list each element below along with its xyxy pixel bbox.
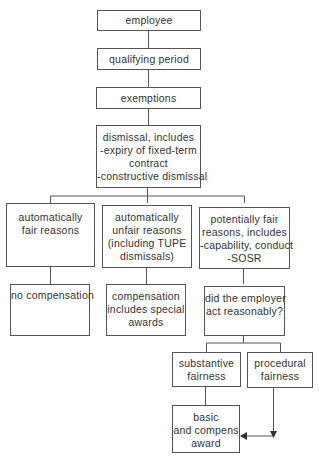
node-label: act reasonably? — [205, 305, 284, 318]
node-potentially-fair: potentially fair reasons, includes -capa… — [199, 207, 290, 269]
node-label: award — [173, 437, 239, 450]
node-compensation-special: compensation includes special awards — [106, 284, 186, 336]
arrowhead-left-icon — [240, 432, 247, 440]
node-label: includes special — [107, 303, 185, 316]
node-label: reasons, includes — [200, 226, 289, 239]
node-label: did the employer — [205, 292, 284, 305]
node-automatically-unfair: automatically unfair reasons (including … — [102, 205, 192, 268]
node-label: -SOSR — [200, 252, 289, 265]
node-employee: employee — [97, 10, 201, 31]
node-label: dismissal, includes — [97, 131, 200, 144]
node-procedural-fairness: procedural fairness — [247, 352, 313, 388]
node-label: fair reasons — [7, 224, 94, 237]
node-substantive-fairness: substantive fairness — [172, 352, 241, 387]
node-label: potentially fair — [200, 213, 289, 226]
node-label: -expiry of fixed-term — [97, 144, 200, 157]
node-no-compensation: no compensation — [10, 284, 90, 336]
arrowhead-down-icon — [270, 431, 277, 438]
node-label: contract — [97, 157, 200, 170]
node-label: automatically — [103, 211, 191, 224]
node-label: fairness — [173, 370, 240, 383]
node-exemptions: exemptions — [96, 87, 201, 109]
node-act-reasonably: did the employer act reasonably? — [204, 286, 285, 336]
node-label: basic — [173, 411, 239, 424]
node-label: exemptions — [121, 92, 177, 105]
node-qualifying-period: qualifying period — [97, 48, 201, 70]
node-label: -constructive dismissal — [97, 170, 200, 183]
node-dismissal: dismissal, includes -expiry of fixed-ter… — [96, 125, 201, 188]
node-label: no compensation — [11, 289, 89, 302]
node-label: compensation — [107, 290, 185, 303]
node-label: and compens — [173, 424, 239, 437]
node-label: substantive — [173, 357, 240, 370]
node-label: awards — [107, 316, 185, 329]
node-label: qualifying period — [109, 53, 189, 66]
node-automatically-fair: automatically fair reasons — [6, 203, 95, 267]
node-label: -capability, conduct — [200, 239, 289, 252]
node-basic-award: basic and compens award — [172, 405, 240, 453]
node-label: employee — [125, 14, 172, 27]
node-label: unfair reasons — [103, 224, 191, 237]
node-label: fairness — [248, 370, 312, 383]
node-label: dismissals) — [103, 250, 191, 263]
node-label: automatically — [7, 211, 94, 224]
node-label: (including TUPE — [103, 237, 191, 250]
node-label: procedural — [248, 357, 312, 370]
